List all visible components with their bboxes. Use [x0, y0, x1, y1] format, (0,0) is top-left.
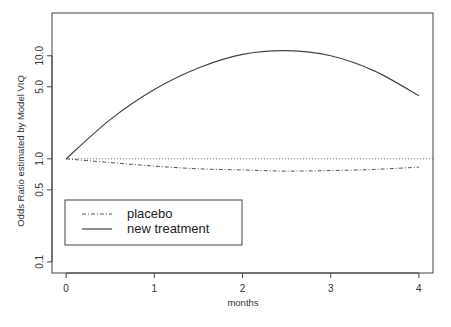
- legend: placebo new treatment: [65, 200, 242, 245]
- y-tick-label: 10.0: [34, 46, 45, 66]
- x-axis: 01234: [63, 273, 422, 294]
- y-tick-label: 5.0: [34, 79, 45, 93]
- x-tick-label: 3: [328, 283, 334, 294]
- x-tick-label: 4: [416, 283, 422, 294]
- y-tick-label: 0.5: [34, 182, 45, 196]
- y-tick-label: 0.1: [34, 254, 45, 268]
- x-axis-title: months: [227, 297, 258, 308]
- series-lines: [66, 51, 419, 171]
- series-new-treatment: [66, 51, 419, 159]
- x-tick-label: 2: [240, 283, 246, 294]
- y-axis-title: Odds Ratio estimated by Model VIQ: [15, 75, 26, 227]
- legend-placebo-label: placebo: [127, 206, 173, 221]
- series-placebo: [66, 159, 419, 171]
- legend-new-treatment-label: new treatment: [127, 221, 210, 236]
- y-axis: 0.10.51.05.010.0: [34, 46, 52, 269]
- x-tick-label: 0: [63, 283, 69, 294]
- y-tick-label: 1.0: [34, 151, 45, 165]
- odds-ratio-chart: 01234 0.10.51.05.010.0 months Odds Ratio…: [0, 0, 451, 327]
- x-tick-label: 1: [152, 283, 158, 294]
